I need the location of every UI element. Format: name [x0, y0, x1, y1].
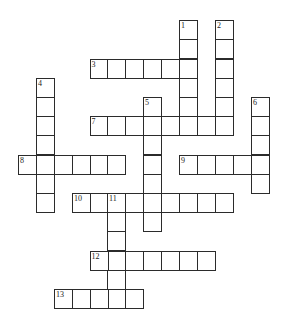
crossword-cell[interactable]: 4 [36, 78, 55, 98]
clue-number: 6 [253, 98, 257, 107]
crossword-cell[interactable] [54, 155, 73, 175]
crossword-cell[interactable] [143, 135, 162, 155]
clue-number: 3 [92, 60, 96, 69]
clue-number: 4 [38, 79, 42, 88]
crossword-cell[interactable] [233, 155, 252, 175]
crossword-cell[interactable] [179, 97, 198, 117]
crossword-cell[interactable] [143, 174, 162, 194]
crossword-cell[interactable] [90, 155, 109, 175]
crossword-cell[interactable] [107, 270, 126, 290]
crossword-cell[interactable] [36, 174, 55, 194]
crossword-cell[interactable] [125, 193, 144, 213]
crossword-cell[interactable] [143, 155, 162, 175]
crossword-cell[interactable] [107, 155, 126, 175]
crossword-cell[interactable] [161, 193, 180, 213]
crossword-cell[interactable] [251, 135, 270, 155]
crossword-cell[interactable]: 8 [18, 155, 37, 175]
crossword-cell[interactable]: 1 [179, 20, 198, 40]
crossword-cell[interactable] [107, 212, 126, 232]
crossword-cell[interactable] [179, 116, 198, 136]
crossword-cell[interactable] [179, 39, 198, 59]
crossword-cell[interactable] [161, 59, 180, 79]
crossword-cell[interactable] [143, 251, 162, 271]
crossword-cell[interactable] [36, 97, 55, 117]
crossword-cell[interactable] [197, 193, 216, 213]
crossword-cell[interactable] [197, 155, 216, 175]
crossword-cell[interactable] [143, 59, 162, 79]
crossword-grid: 12345678910111213 [0, 0, 285, 328]
clue-number: 5 [145, 98, 149, 107]
crossword-cell[interactable]: 6 [251, 97, 270, 117]
crossword-cell[interactable] [143, 193, 162, 213]
crossword-cell[interactable] [107, 116, 126, 136]
crossword-cell[interactable] [90, 289, 109, 309]
crossword-cell[interactable] [197, 116, 216, 136]
crossword-cell[interactable] [215, 78, 234, 98]
crossword-cell[interactable] [161, 116, 180, 136]
clue-number: 10 [74, 194, 82, 203]
crossword-cell[interactable]: 13 [54, 289, 73, 309]
crossword-cell[interactable]: 11 [107, 193, 126, 213]
clue-number: 12 [92, 252, 100, 261]
crossword-cell[interactable] [215, 193, 234, 213]
crossword-cell[interactable] [125, 116, 144, 136]
crossword-cell[interactable] [125, 289, 144, 309]
crossword-cell[interactable] [72, 155, 91, 175]
crossword-cell[interactable] [107, 251, 126, 271]
crossword-cell[interactable] [215, 39, 234, 59]
clue-number: 1 [181, 21, 185, 30]
crossword-cell[interactable] [36, 155, 55, 175]
crossword-cell[interactable] [125, 59, 144, 79]
clue-number: 9 [181, 156, 185, 165]
crossword-cell[interactable] [107, 59, 126, 79]
crossword-cell[interactable] [215, 59, 234, 79]
crossword-cell[interactable] [143, 212, 162, 232]
crossword-cell[interactable] [251, 174, 270, 194]
crossword-cell[interactable] [36, 116, 55, 136]
crossword-cell[interactable] [215, 155, 234, 175]
crossword-cell[interactable] [72, 289, 91, 309]
crossword-cell[interactable] [36, 135, 55, 155]
crossword-cell[interactable] [179, 251, 198, 271]
clue-number: 11 [109, 194, 117, 203]
crossword-cell[interactable] [107, 231, 126, 251]
crossword-cell[interactable]: 5 [143, 97, 162, 117]
clue-number: 2 [217, 21, 221, 30]
crossword-cell[interactable] [179, 193, 198, 213]
crossword-cell[interactable] [251, 155, 270, 175]
crossword-cell[interactable]: 12 [90, 251, 109, 271]
crossword-cell[interactable]: 7 [90, 116, 109, 136]
crossword-cell[interactable] [215, 116, 234, 136]
crossword-cell[interactable] [215, 97, 234, 117]
crossword-cell[interactable]: 10 [72, 193, 91, 213]
crossword-cell[interactable] [179, 59, 198, 79]
crossword-cell[interactable] [197, 251, 216, 271]
crossword-cell[interactable]: 9 [179, 155, 198, 175]
crossword-cell[interactable] [36, 193, 55, 213]
crossword-cell[interactable] [90, 193, 109, 213]
crossword-cell[interactable] [179, 78, 198, 98]
crossword-cell[interactable] [125, 251, 144, 271]
clue-number: 8 [20, 156, 24, 165]
crossword-cell[interactable] [107, 289, 126, 309]
crossword-cell[interactable]: 2 [215, 20, 234, 40]
crossword-cell[interactable]: 3 [90, 59, 109, 79]
clue-number: 13 [56, 290, 64, 299]
crossword-cell[interactable] [161, 251, 180, 271]
clue-number: 7 [92, 117, 96, 126]
crossword-cell[interactable] [251, 116, 270, 136]
crossword-cell[interactable] [143, 116, 162, 136]
